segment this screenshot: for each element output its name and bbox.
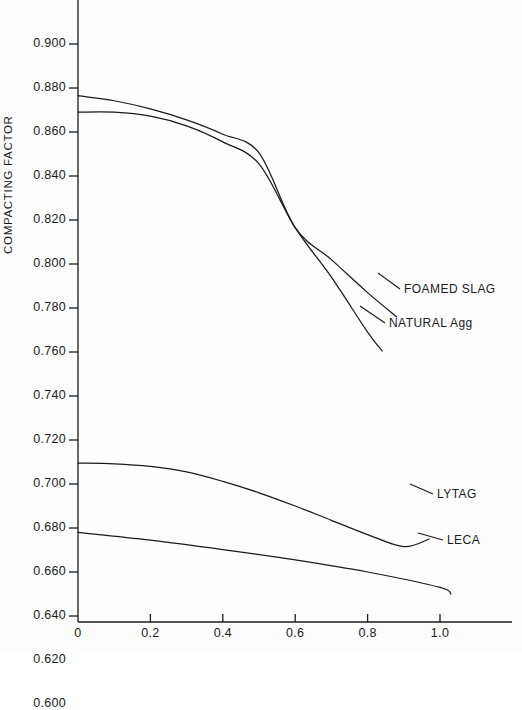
y-tick-label: 0.900	[0, 36, 66, 50]
series-line-lytag	[78, 463, 429, 547]
series-label-lytag: LYTAG	[437, 487, 477, 501]
y-tick-label: 0.700	[0, 476, 66, 490]
series-label-foamed-slag: FOAMED SLAG	[404, 282, 496, 296]
y-tick-label: 0.640	[0, 608, 66, 622]
y-tick-label: 0.760	[0, 344, 66, 358]
y-tick-label: 0.620	[0, 652, 66, 666]
x-axis-ticks	[150, 614, 440, 622]
y-tick-label: 0.680	[0, 520, 66, 534]
y-tick-label: 0.820	[0, 212, 66, 226]
y-tick-label: 0.720	[0, 432, 66, 446]
series-line-foamed-slag	[78, 96, 397, 317]
series-label-natural-agg: NATURAL Agg	[389, 316, 473, 330]
y-tick-label: 0.660	[0, 564, 66, 578]
y-tick-label: 0.740	[0, 388, 66, 402]
y-tick-label: 0.880	[0, 80, 66, 94]
series-label-leca: LECA	[447, 533, 480, 547]
annotation-leader-lines	[360, 273, 443, 540]
y-tick-label: 0.860	[0, 124, 66, 138]
x-tick-label: 0.4	[203, 626, 243, 640]
series-lines	[78, 96, 451, 594]
leader-line-foamed-slag	[378, 273, 400, 289]
y-axis-ticks	[69, 44, 78, 651]
axis-group	[78, 0, 512, 622]
x-tick-label: 0.8	[348, 626, 388, 640]
y-tick-label: 0.780	[0, 300, 66, 314]
leader-line-leca	[418, 533, 443, 540]
y-tick-label: 0.840	[0, 168, 66, 182]
x-tick-label: 0.2	[130, 626, 170, 640]
x-tick-label: 1.0	[420, 626, 460, 640]
leader-line-natural-agg	[360, 306, 385, 323]
series-line-leca	[78, 532, 451, 594]
x-tick-label: 0.6	[275, 626, 315, 640]
y-tick-label: 0.600	[0, 696, 66, 710]
leader-line-lytag	[410, 484, 433, 494]
y-tick-label: 0.800	[0, 256, 66, 270]
x-tick-label: 0	[58, 626, 98, 640]
series-line-natural-agg	[78, 112, 382, 351]
y-axis-title: COMPACTING FACTOR	[2, 232, 14, 254]
